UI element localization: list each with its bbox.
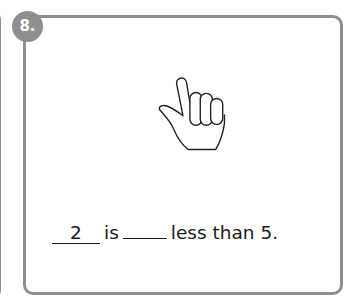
sentence-tail: less than 5. [171,222,278,243]
word-is: is [104,222,119,243]
answer-blank-1[interactable]: 2 [52,223,100,244]
previous-card-edge [0,10,1,299]
fill-in-sentence: 2isless than 5. [52,222,282,244]
question-number-badge: 8. [12,11,43,42]
question-number: 8. [19,17,35,35]
answer-blank-2[interactable] [123,238,167,239]
hand-showing-number-icon [145,70,240,165]
